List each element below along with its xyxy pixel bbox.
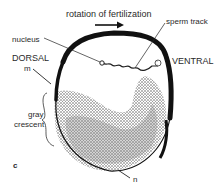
panel-label: c (13, 161, 17, 170)
sperm-track-label: sperm track (166, 17, 208, 26)
right-arrow-icon (95, 22, 124, 29)
n-leader (118, 170, 130, 178)
dorsal-label: DORSAL (12, 54, 49, 63)
nucleus-label: nucleus (12, 35, 40, 44)
m-leader (33, 69, 51, 84)
nucleus-marker (100, 61, 104, 65)
gray-label: gray (28, 110, 44, 119)
ventral-label: VENTRAL (172, 57, 214, 66)
rotation-label: rotation of fertilization (66, 10, 152, 19)
m-label: m (24, 64, 31, 73)
sperm-entry (155, 60, 161, 66)
crescent-label: crescent (14, 120, 44, 129)
n-label: n (133, 175, 137, 184)
egg-diagram (0, 0, 221, 184)
